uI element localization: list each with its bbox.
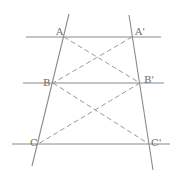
label-point-c-prime: C' xyxy=(151,137,161,148)
dashed-segment-bprime-c xyxy=(38,83,140,144)
label-point-a: A xyxy=(55,26,64,37)
right-transversal xyxy=(129,15,153,170)
dashed-segment-aprime-b xyxy=(53,37,132,83)
dashed-segment-a-bprime xyxy=(64,37,140,83)
label-point-b-prime: B' xyxy=(144,74,154,85)
label-point-b: B xyxy=(43,77,50,88)
label-point-c: C xyxy=(30,137,38,148)
thales-parallel-lines-diagram: A A' B B' C C' xyxy=(0,0,182,182)
dashed-segment-b-cprime xyxy=(53,83,149,144)
label-point-a-prime: A' xyxy=(134,26,145,37)
